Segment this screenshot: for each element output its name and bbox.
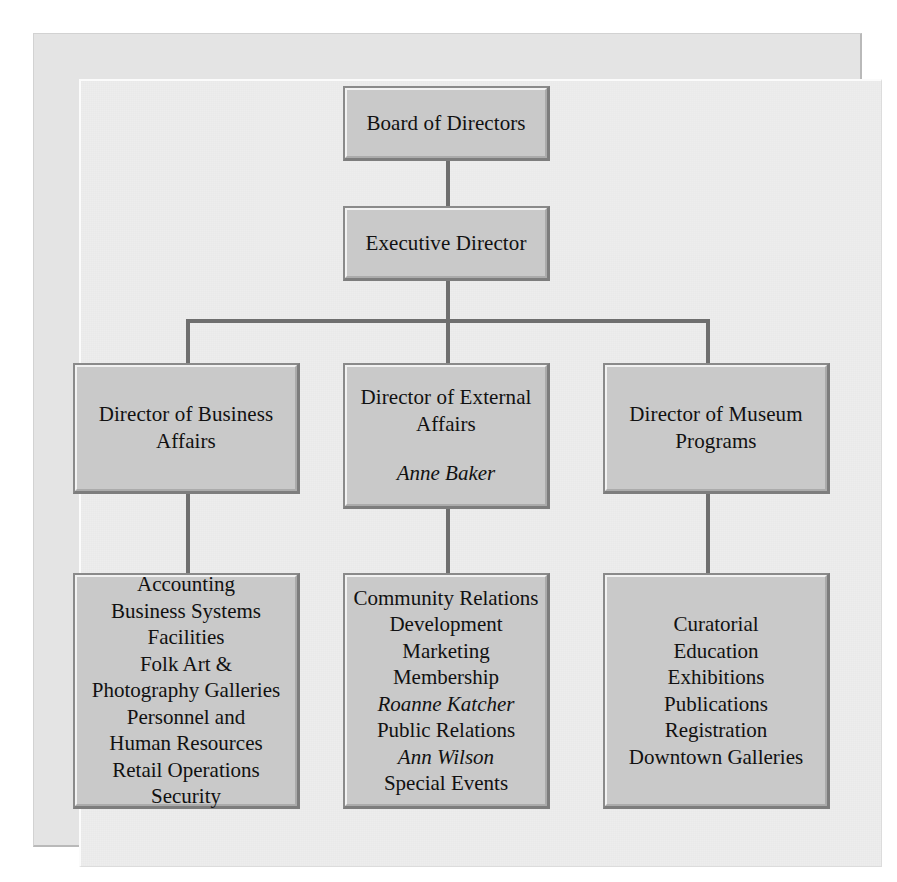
department-item: Curatorial — [613, 611, 819, 638]
node-departments-external-affairs[interactable]: Community RelationsDevelopmentMarketingM… — [343, 573, 550, 809]
department-item: Downtown Galleries — [613, 744, 819, 771]
department-person: Ann Wilson — [353, 744, 539, 771]
department-person: Roanne Katcher — [353, 691, 539, 718]
department-item: Education — [613, 638, 819, 665]
department-item: Registration — [613, 717, 819, 744]
department-item: Publications — [613, 691, 819, 718]
connector-board-to-executive — [446, 161, 450, 206]
connector-drop-external-affairs — [446, 319, 450, 363]
org-chart-page: Board of Directors Executive Director Di… — [0, 0, 897, 882]
node-board-label: Board of Directors — [353, 110, 539, 137]
department-item: Membership — [353, 664, 539, 691]
department-item: Community Relations — [353, 585, 539, 612]
department-item: Human Resources — [83, 730, 289, 757]
node-departments-museum-programs[interactable]: CuratorialEducationExhibitionsPublicatio… — [603, 573, 830, 809]
node-director-business-affairs[interactable]: Director of Business Affairs — [73, 363, 300, 494]
node-business-affairs-line1: Director of Business — [83, 401, 289, 428]
department-item: Retail Operations — [83, 757, 289, 784]
department-item: Accounting — [83, 571, 289, 598]
connector-museum-programs-to-departments — [706, 494, 710, 573]
department-list-museum-programs: CuratorialEducationExhibitionsPublicatio… — [613, 611, 819, 770]
node-board-of-directors[interactable]: Board of Directors — [343, 86, 550, 161]
node-museum-programs-line1: Director of Museum — [613, 401, 819, 428]
department-item: Photography Galleries — [83, 677, 289, 704]
node-director-museum-programs[interactable]: Director of Museum Programs — [603, 363, 830, 494]
department-item: Development — [353, 611, 539, 638]
department-item: Security — [83, 783, 289, 810]
connector-drop-business-affairs — [186, 319, 190, 363]
department-item: Special Events — [353, 770, 539, 797]
connector-executive-drop — [446, 281, 450, 321]
department-item: Public Relations — [353, 717, 539, 744]
department-item: Exhibitions — [613, 664, 819, 691]
node-executive-label: Executive Director — [353, 230, 539, 257]
node-museum-programs-line2: Programs — [613, 428, 819, 455]
connector-drop-museum-programs — [706, 319, 710, 363]
department-item: Business Systems — [83, 598, 289, 625]
department-list-business-affairs: AccountingBusiness SystemsFacilitiesFolk… — [83, 571, 289, 810]
department-item: Facilities — [83, 624, 289, 651]
node-director-external-affairs[interactable]: Director of External Affairs Anne Baker — [343, 363, 550, 509]
connector-business-affairs-to-departments — [186, 494, 190, 573]
node-external-affairs-spacer — [353, 438, 539, 460]
department-item: Folk Art & — [83, 651, 289, 678]
node-external-affairs-line2: Affairs — [353, 411, 539, 438]
department-item: Marketing — [353, 638, 539, 665]
department-item: Personnel and — [83, 704, 289, 731]
node-executive-director[interactable]: Executive Director — [343, 206, 550, 281]
node-external-affairs-person: Anne Baker — [353, 460, 539, 487]
department-list-external-affairs: Community RelationsDevelopmentMarketingM… — [353, 585, 539, 797]
node-departments-business-affairs[interactable]: AccountingBusiness SystemsFacilitiesFolk… — [73, 573, 300, 809]
node-external-affairs-line1: Director of External — [353, 384, 539, 411]
connector-external-affairs-to-departments — [446, 509, 450, 573]
node-business-affairs-line2: Affairs — [83, 428, 289, 455]
